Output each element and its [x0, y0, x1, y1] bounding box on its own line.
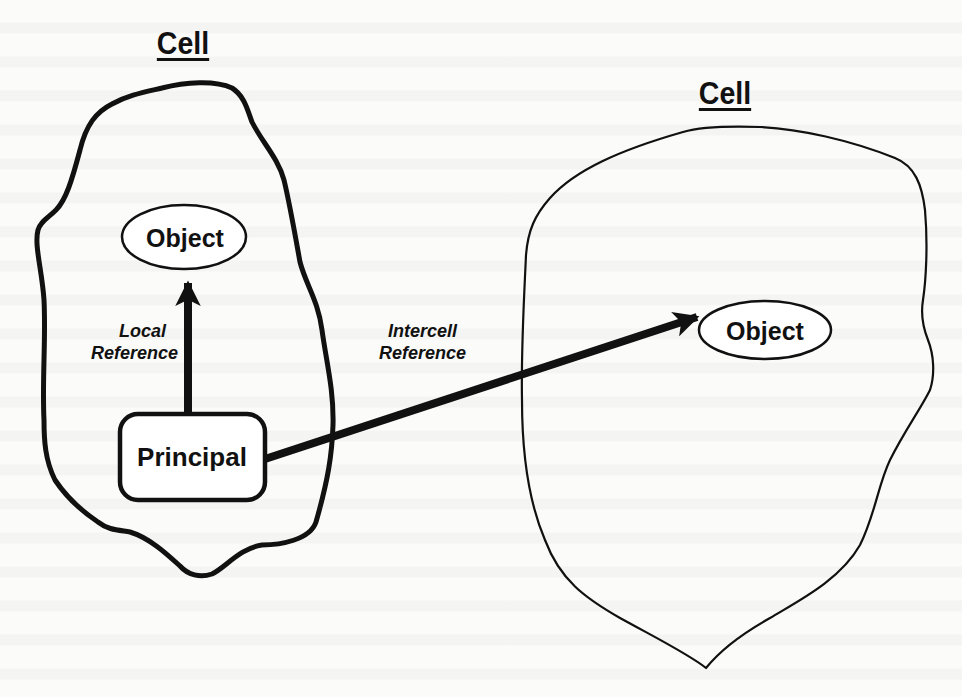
local-reference-label: Local Reference	[68, 320, 178, 364]
local-reference-label-line2: Reference	[68, 342, 178, 364]
right-cell-title: Cell	[699, 78, 751, 109]
right-object-label: Object	[726, 319, 804, 344]
intercell-reference-label: Intercell Reference	[365, 320, 480, 364]
left-object-label: Object	[146, 226, 224, 251]
local-reference-label-line1: Local	[68, 320, 178, 342]
principal-label: Principal	[137, 444, 247, 470]
intercell-reference-label-line2: Reference	[365, 342, 480, 364]
right-cell-boundary	[522, 127, 933, 668]
intercell-reference-label-line1: Intercell	[365, 320, 480, 342]
left-cell-title: Cell	[157, 28, 209, 59]
